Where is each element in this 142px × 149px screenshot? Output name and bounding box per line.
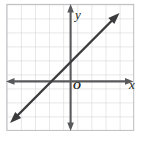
origin-label: O — [73, 80, 81, 91]
x-axis-label: x — [129, 78, 135, 91]
coordinate-plane-svg — [0, 0, 142, 149]
coordinate-plane-figure: y x O — [0, 0, 142, 149]
y-axis-label: y — [75, 8, 81, 21]
